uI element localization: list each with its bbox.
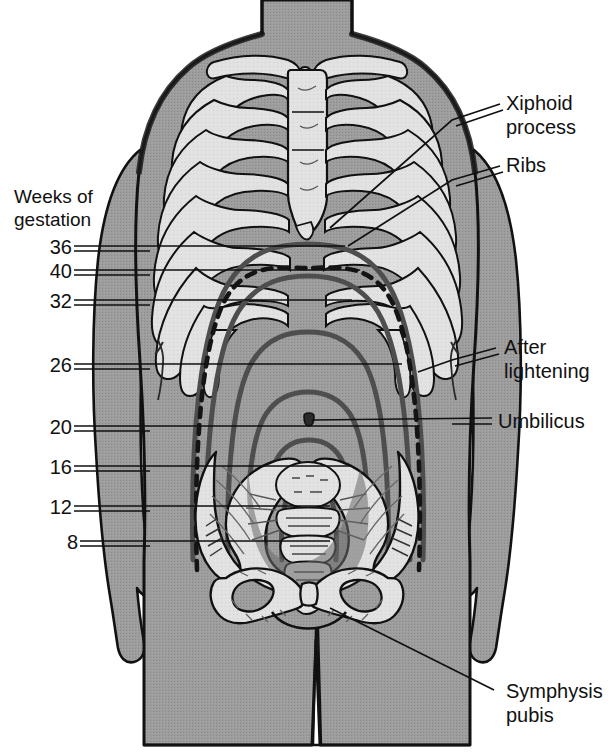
axis-title-line2: gestation bbox=[14, 209, 91, 230]
sternum bbox=[288, 70, 327, 240]
annotation-symphysis-line2: pubis bbox=[506, 704, 554, 726]
week-label-36: 36 bbox=[50, 236, 72, 258]
week-label-26: 26 bbox=[50, 354, 72, 376]
symphysis-pubis bbox=[301, 583, 318, 606]
annotation-symphysis-line1: Symphysis bbox=[506, 680, 603, 702]
week-label-16: 16 bbox=[50, 456, 72, 478]
annotation-after-lightening-line2: lightening bbox=[504, 360, 590, 382]
annotation-xiphoid-line2: process bbox=[506, 116, 576, 138]
week-label-12: 12 bbox=[50, 496, 72, 518]
annotation-ribs: Ribs bbox=[506, 154, 546, 176]
annotation-xiphoid-line1: Xiphoid bbox=[506, 92, 573, 114]
vertebra-l5 bbox=[276, 462, 340, 508]
fundal-height-illustration: Weeks of gestation 36 40 32 26 20 16 12 … bbox=[0, 0, 614, 753]
annotation-umbilicus: Umbilicus bbox=[498, 410, 585, 432]
annotation-after-lightening-line1: After bbox=[504, 336, 547, 358]
week-label-20: 20 bbox=[50, 416, 72, 438]
week-label-32: 32 bbox=[50, 290, 72, 312]
vertebra-s1 bbox=[276, 508, 339, 539]
week-label-40: 40 bbox=[50, 260, 72, 282]
week-label-8: 8 bbox=[67, 531, 78, 553]
axis-title-line1: Weeks of bbox=[14, 186, 94, 207]
